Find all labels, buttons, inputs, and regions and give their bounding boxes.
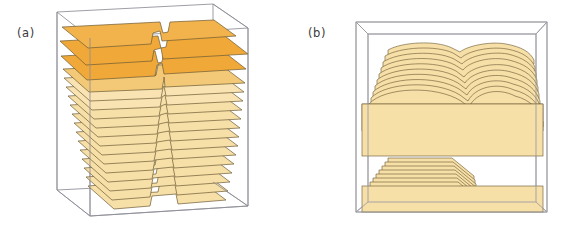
panel-a-graphic — [0, 0, 284, 231]
panel-b-mid-slab-body — [362, 104, 543, 156]
figure-root: (a) — [0, 0, 567, 231]
panel-b-bottom-slab — [362, 186, 543, 212]
panel-a: (a) — [0, 0, 284, 231]
panel-b: (b) — [284, 0, 567, 231]
panel-b-graphic — [284, 0, 567, 231]
panel-a-slice-stack — [60, 20, 248, 209]
